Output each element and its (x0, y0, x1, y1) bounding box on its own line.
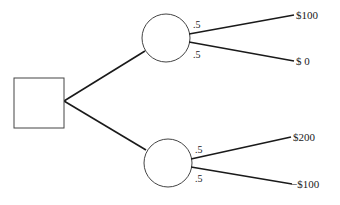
edge-lower-branch-2 (191, 167, 292, 184)
edge-upper-branch-1 (189, 15, 294, 34)
probability-label-lower-2: .5 (195, 173, 203, 184)
edge-decision-to-upper-chance (64, 51, 145, 101)
edge-lower-branch-1 (191, 137, 291, 159)
payoff-label-upper-2: $ 0 (296, 55, 310, 67)
payoff-label-lower-2: −$100 (291, 178, 320, 190)
chance-node-lower (144, 139, 192, 187)
probability-label-lower-1: .5 (195, 144, 203, 155)
edge-decision-to-lower-chance (64, 101, 146, 150)
decision-node-square (14, 78, 64, 128)
payoff-label-lower-1: $200 (293, 131, 316, 143)
probability-label-upper-2: .5 (193, 49, 201, 60)
edge-upper-branch-2 (189, 42, 294, 61)
probability-label-upper-1: .5 (193, 19, 201, 30)
decision-tree-diagram: .5 .5 $100 $ 0 .5 .5 $200 −$100 (0, 0, 340, 205)
chance-node-upper (142, 14, 190, 62)
payoff-label-upper-1: $100 (296, 9, 319, 21)
